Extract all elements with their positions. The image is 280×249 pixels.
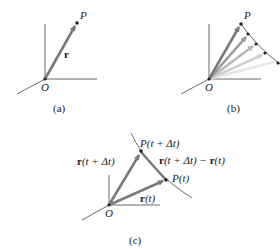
panel-a: P r O (a) [17, 9, 97, 115]
label-r-t: r(t) [140, 192, 156, 205]
point-p-t-dt [139, 149, 143, 153]
panel-c: P(t + Δt) r(t + Δt) r(t + Δt) − r(t) P(t… [77, 133, 225, 247]
figure: P r O (a) P O (b) [0, 0, 280, 249]
label-p-a: P [79, 9, 87, 21]
label-o-a: O [41, 81, 49, 93]
point-p-a [75, 21, 79, 25]
label-o-b: O [205, 81, 213, 93]
label-p-t: P(t) [171, 172, 189, 185]
vector-b-2 [209, 37, 246, 79]
caption-c: (c) [129, 234, 142, 247]
caption-a: (a) [53, 102, 66, 115]
panel-b: P O (b) [181, 9, 280, 115]
label-o-c: O [105, 207, 113, 219]
label-p-b: P [243, 9, 251, 21]
label-r-t-dt: r(t + Δt) [77, 155, 115, 168]
label-p-t-dt: P(t + Δt) [139, 137, 180, 150]
point-p-t [164, 178, 168, 182]
label-r-a: r [64, 48, 69, 60]
trajectory-curve-b [241, 24, 280, 64]
trajectory-points-b [239, 22, 279, 64]
caption-b: (b) [227, 102, 240, 115]
position-vector-r [45, 26, 75, 79]
label-difference: r(t + Δt) − r(t) [159, 154, 225, 167]
